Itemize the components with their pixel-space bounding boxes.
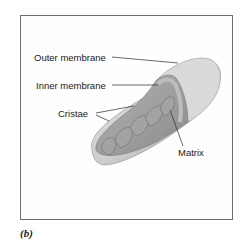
figure-caption: (b) [20,227,33,239]
label-cristae: Cristae [58,108,88,119]
mitochondrion-illustration [0,0,247,249]
label-inner-membrane: Inner membrane [36,80,106,91]
label-matrix: Matrix [178,147,204,158]
label-outer-membrane: Outer membrane [34,52,106,63]
